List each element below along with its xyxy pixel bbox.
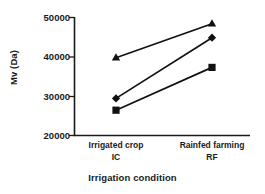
x-tick-label-line2: IC [68,152,164,164]
series-diamond [112,34,216,103]
data-point-marker [112,94,120,102]
series-line [116,24,212,58]
data-point-marker [112,107,119,114]
x-tick-label-line1: Rainfed farming [164,140,260,152]
x-tick-label-line2: RF [164,152,260,164]
x-tick-rainfed-farming: Rainfed farming RF [164,140,260,163]
chart-container: Mv (Da) 50000 40000 30000 20000 [0,0,265,194]
plot-area [0,0,265,194]
data-point-marker [208,34,216,42]
series-square [112,64,215,114]
x-tick-label-line1: Irrigated crop [68,140,164,152]
data-point-marker [208,64,215,71]
data-point-marker [208,19,216,26]
x-tick-irrigated-crop: Irrigated crop IC [68,140,164,163]
axis-lines [74,17,251,136]
series-triangle [112,19,216,60]
y-axis-ticks [69,18,75,136]
x-axis-title: Irrigation condition [0,172,265,183]
